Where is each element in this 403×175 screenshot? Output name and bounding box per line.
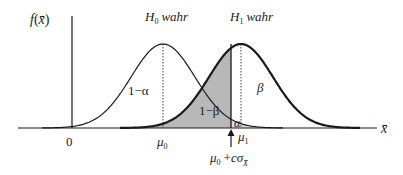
mu0-label: μ0 <box>156 134 168 151</box>
critical-value-arrow-icon <box>228 129 235 136</box>
y-axis-label: f(x̄) <box>30 12 50 28</box>
alpha-label: α <box>234 116 241 130</box>
tick-zero-label: 0 <box>66 134 73 149</box>
beta-label: β <box>256 80 264 95</box>
one-minus-beta-label: 1−β <box>199 103 220 118</box>
h1-label: H1wahr <box>229 9 274 26</box>
one-minus-alpha-label: 1−α <box>128 83 149 98</box>
diagram-canvas: f(x̄) H0wahr H1wahr 1−α 1−β β α 0 μ0 μ1 … <box>0 0 403 175</box>
hypothesis-test-diagram: f(x̄) H0wahr H1wahr 1−α 1−β β α 0 μ0 μ1 … <box>0 0 403 175</box>
mu1-label: μ1 <box>237 129 249 146</box>
h0-label: H0wahr <box>144 9 189 26</box>
x-axis-label: x̄ <box>380 121 388 136</box>
critical-value-label: μ0+cσX̄ <box>209 150 249 168</box>
